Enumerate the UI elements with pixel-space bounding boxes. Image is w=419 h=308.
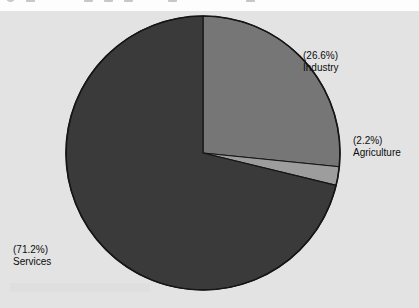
industry-name: Industry [303,62,339,74]
industry-percent: (26.6%) [303,50,339,62]
services-percent: (71.2%) [13,244,51,256]
pie-chart-graphic [0,11,419,308]
toolbar-icon-5[interactable] [124,0,133,2]
compression-artifact [10,283,150,292]
chart-canvas: (26.6%) Industry (2.2%) Agriculture (71.… [0,11,419,308]
toolbar-icon-7[interactable] [246,0,255,2]
toolbar-icon-3[interactable] [84,0,93,2]
services-label: (71.2%) Services [13,244,51,267]
industry-label: (26.6%) Industry [303,50,339,73]
pie-slice-industry[interactable] [203,16,340,167]
agriculture-label: (2.2%) Agriculture [353,135,401,158]
toolbar-icon-2[interactable] [26,0,35,2]
toolbar-icon-4[interactable] [104,0,113,2]
toolbar-icon-6[interactable] [168,0,177,2]
pie-chart-screenshot: (26.6%) Industry (2.2%) Agriculture (71.… [0,0,419,308]
services-name: Services [13,256,51,268]
agriculture-name: Agriculture [353,147,401,159]
toolbar-icon-1[interactable] [6,0,15,2]
agriculture-percent: (2.2%) [353,135,401,147]
